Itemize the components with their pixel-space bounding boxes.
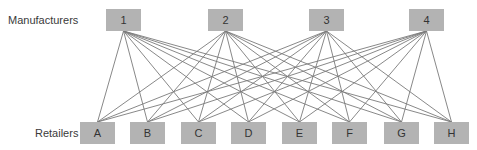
edge-2-A bbox=[98, 31, 226, 122]
edge-4-A bbox=[98, 31, 427, 122]
edge-4-B bbox=[148, 31, 427, 122]
retailer-node-h: H bbox=[434, 122, 469, 144]
retailers-label: Retailers bbox=[35, 126, 78, 140]
retailer-node-f: F bbox=[332, 122, 367, 144]
edge-3-A bbox=[98, 31, 327, 122]
retailer-node-c: C bbox=[181, 122, 216, 144]
manufacturer-node-4: 4 bbox=[409, 9, 444, 31]
edge-4-H bbox=[427, 31, 452, 122]
manufacturers-label: Manufacturers bbox=[8, 13, 78, 27]
edge-4-E bbox=[300, 31, 427, 122]
edge-4-F bbox=[350, 31, 427, 122]
edge-1-A bbox=[98, 31, 124, 122]
manufacturer-node-1: 1 bbox=[106, 9, 141, 31]
edge-4-G bbox=[402, 31, 427, 122]
edge-1-B bbox=[124, 31, 148, 122]
edge-2-H bbox=[226, 31, 452, 122]
edge-4-C bbox=[199, 31, 427, 122]
manufacturer-node-3: 3 bbox=[309, 9, 344, 31]
retailer-node-a: A bbox=[80, 122, 115, 144]
edge-3-H bbox=[327, 31, 452, 122]
edge-2-B bbox=[148, 31, 226, 122]
retailer-node-b: B bbox=[130, 122, 165, 144]
retailer-node-e: E bbox=[282, 122, 317, 144]
retailer-node-g: G bbox=[384, 122, 419, 144]
supply-network-diagram: Manufacturers Retailers 1234 ABCDEFGH bbox=[0, 0, 477, 150]
manufacturer-node-2: 2 bbox=[208, 9, 243, 31]
retailer-node-d: D bbox=[231, 122, 266, 144]
